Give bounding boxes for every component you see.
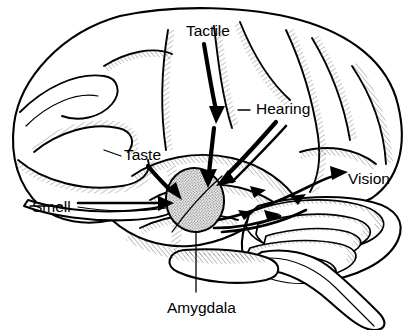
label-hearing: Hearing (256, 100, 310, 117)
label-tactile: Tactile (186, 22, 230, 39)
brain-diagram-figure: Tactile Hearing Taste Smell Vision Amygd… (0, 0, 419, 330)
label-amygdala: Amygdala (167, 299, 236, 316)
label-smell: Smell (32, 198, 71, 215)
brain-illustration: Tactile Hearing Taste Smell Vision Amygd… (0, 0, 419, 330)
label-vision: Vision (348, 170, 390, 187)
label-taste: Taste (124, 146, 161, 163)
